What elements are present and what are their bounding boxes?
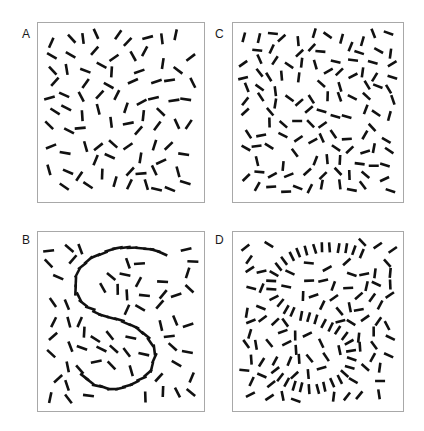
panel-elements-d [0,0,424,431]
figure-canvas: A B C D [0,0,424,431]
